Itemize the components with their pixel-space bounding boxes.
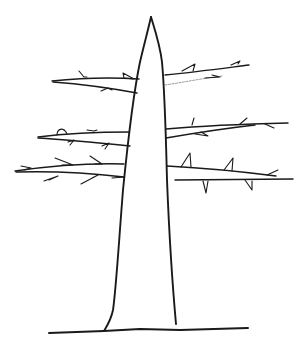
branch-middle-right — [166, 118, 288, 138]
branch-lower-left — [15, 156, 124, 184]
trunk-right-edge — [151, 17, 176, 324]
drawing-canvas: Line drawing of a tree trunk with thorny… — [0, 0, 304, 349]
tree-drawing — [0, 0, 304, 349]
branch-middle-left — [38, 129, 130, 149]
trunk-left-edge — [104, 17, 151, 331]
ground-line — [49, 328, 248, 333]
trunk — [104, 17, 176, 331]
branch-lower-right — [167, 153, 293, 193]
branch-upper-right — [165, 61, 249, 85]
branch-upper-left — [52, 71, 139, 93]
